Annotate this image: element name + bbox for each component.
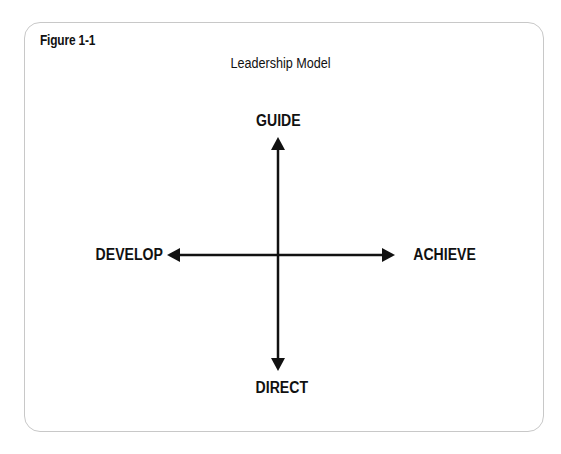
label-achieve: ACHIEVE xyxy=(413,246,476,264)
arrow-left-icon xyxy=(167,248,180,262)
label-develop: DEVELOP xyxy=(96,246,163,264)
horizontal-axis xyxy=(167,248,395,262)
arrow-down-icon xyxy=(271,358,285,371)
arrow-right-icon xyxy=(382,248,395,262)
label-guide: GUIDE xyxy=(256,112,301,130)
label-direct: DIRECT xyxy=(256,379,308,397)
arrow-up-icon xyxy=(271,137,285,150)
